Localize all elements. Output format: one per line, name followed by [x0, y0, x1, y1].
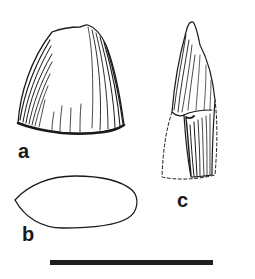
panel-label-b: b: [22, 224, 34, 244]
figure-canvas: a b c: [0, 0, 255, 279]
scale-bar: [50, 260, 213, 265]
panel-label-c: c: [177, 190, 188, 210]
figure-illustration: [0, 0, 255, 279]
panel-label-a: a: [18, 141, 29, 161]
tooth-b-outline: [15, 176, 137, 228]
tooth-a-drawing: [18, 25, 124, 134]
tooth-c-drawing: [162, 22, 217, 179]
